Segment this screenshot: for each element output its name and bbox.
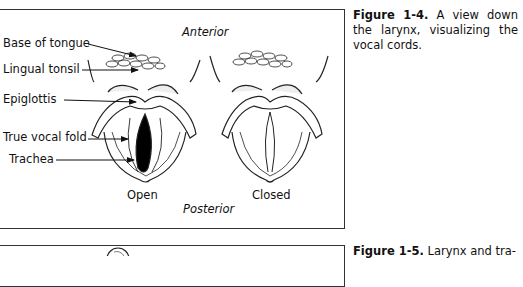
label-base-of-tongue: Base of tongue [3,38,90,50]
figure-1-5-text: Larynx and tra- [428,244,516,258]
label-closed: Closed [252,190,291,202]
figure-1-4-number: Figure 1-4. [353,8,428,22]
label-lingual-tonsil: Lingual tonsil [3,64,80,76]
label-epiglottis: Epiglottis [3,94,57,106]
closed-larynx-drawing [210,51,328,182]
label-anterior: Anterior [182,27,228,39]
figure-1-5-caption: Figure 1-5. Larynx and tra- [353,244,518,259]
label-posterior: Posterior [183,204,234,216]
label-trachea: Trachea [9,154,54,166]
figure-1-4-caption: Figure 1-4. A view down the larynx, visu… [353,8,518,53]
label-open: Open [127,190,158,202]
figure-1-5-number: Figure 1-5. [353,244,424,258]
label-true-vocal-fold: True vocal fold [3,132,87,144]
open-larynx-drawing [88,53,200,182]
